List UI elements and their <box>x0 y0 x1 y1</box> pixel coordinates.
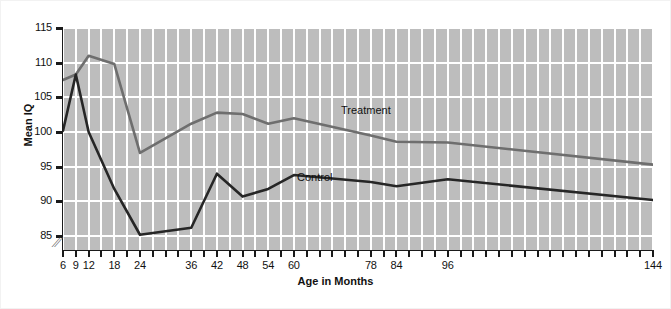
x-tick-mark <box>357 251 359 257</box>
x-tick-mark <box>447 251 449 257</box>
x-tick-mark <box>152 251 154 257</box>
x-tick-mark <box>626 251 628 257</box>
y-tick-label: 85 <box>26 229 52 241</box>
x-tick-mark <box>614 251 616 257</box>
x-tick-label: 96 <box>433 259 463 271</box>
y-tick-label: 115 <box>26 21 52 33</box>
y-tick-label: 100 <box>26 125 52 137</box>
plot-area <box>63 28 653 250</box>
x-tick-mark <box>524 251 526 257</box>
x-tick-mark <box>498 251 500 257</box>
x-tick-mark <box>562 251 564 257</box>
x-tick-mark <box>126 251 128 257</box>
x-tick-mark <box>383 251 385 257</box>
x-tick-mark <box>306 251 308 257</box>
chart-figure: Mean IQ 859095100105110115 ⁄⁄ 6912182436… <box>0 0 671 309</box>
x-tick-label: 144 <box>638 259 668 271</box>
x-tick-mark <box>485 251 487 257</box>
x-tick-mark <box>537 251 539 257</box>
x-tick-mark <box>588 251 590 257</box>
x-tick-mark <box>408 251 410 257</box>
x-tick-mark <box>242 251 244 257</box>
x-tick-label: 60 <box>279 259 309 271</box>
x-tick-mark <box>434 251 436 257</box>
x-tick-mark <box>88 251 90 257</box>
x-tick-mark <box>62 251 64 257</box>
x-tick-mark <box>177 251 179 257</box>
x-tick-mark <box>472 251 474 257</box>
x-tick-mark <box>344 251 346 257</box>
series-lines <box>63 28 653 250</box>
y-tick-mark <box>56 131 63 134</box>
x-tick-mark <box>652 251 654 257</box>
x-tick-label: 84 <box>381 259 411 271</box>
x-tick-mark <box>395 251 397 257</box>
x-tick-mark <box>460 251 462 257</box>
x-tick-mark <box>267 251 269 257</box>
x-tick-mark <box>370 251 372 257</box>
y-tick-mark <box>56 200 63 203</box>
x-tick-mark <box>100 251 102 257</box>
x-tick-mark <box>203 251 205 257</box>
x-tick-mark <box>254 251 256 257</box>
y-tick-label: 110 <box>26 56 52 68</box>
x-tick-mark <box>511 251 513 257</box>
x-tick-mark <box>165 251 167 257</box>
x-tick-mark <box>216 251 218 257</box>
x-tick-mark <box>190 251 192 257</box>
x-tick-mark <box>575 251 577 257</box>
axis-break-icon: ⁄⁄ <box>54 233 73 251</box>
series-label-treatment: Treatment <box>341 104 391 116</box>
x-tick-mark <box>113 251 115 257</box>
y-tick-mark <box>56 96 63 99</box>
x-tick-mark <box>601 251 603 257</box>
x-tick-mark <box>331 251 333 257</box>
y-tick-mark <box>56 62 63 65</box>
x-tick-mark <box>319 251 321 257</box>
x-axis-title: Age in Months <box>1 275 670 287</box>
y-tick-label: 105 <box>26 90 52 102</box>
y-tick-label: 90 <box>26 194 52 206</box>
x-tick-mark <box>293 251 295 257</box>
x-tick-mark <box>75 251 77 257</box>
y-tick-mark <box>56 27 63 30</box>
x-tick-label: 24 <box>125 259 155 271</box>
x-tick-mark <box>229 251 231 257</box>
x-tick-mark <box>549 251 551 257</box>
x-tick-mark <box>280 251 282 257</box>
series-label-control: Control <box>297 171 332 183</box>
y-tick-mark <box>56 166 63 169</box>
y-tick-label: 95 <box>26 160 52 172</box>
x-tick-mark <box>639 251 641 257</box>
x-tick-mark <box>139 251 141 257</box>
x-tick-mark <box>421 251 423 257</box>
